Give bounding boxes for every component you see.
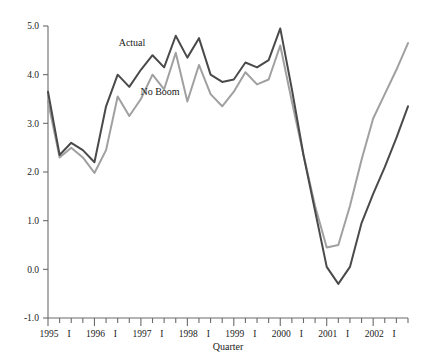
y-tick-label: 4.0 bbox=[27, 70, 39, 80]
y-tick-label: 5.0 bbox=[27, 21, 39, 31]
data-series-group bbox=[48, 28, 408, 284]
x-tick-label-quarter: I bbox=[253, 329, 256, 339]
x-tick-label-quarter: I bbox=[300, 329, 303, 339]
x-tick-label-year: 2000 bbox=[272, 329, 291, 339]
x-tick-label-quarter: I bbox=[346, 329, 349, 339]
x-tick-label-quarter: I bbox=[207, 329, 210, 339]
y-tick-label: 0.0 bbox=[27, 265, 39, 275]
series-annotation-actual: Actual bbox=[119, 37, 146, 48]
series-line-no-boom bbox=[48, 43, 408, 247]
chart-container: -1.00.01.02.03.04.05.0 1995I1996I1997I19… bbox=[0, 0, 432, 363]
x-tick-label-year: 1996 bbox=[86, 329, 105, 339]
y-axis-tick-labels: -1.00.01.02.03.04.05.0 bbox=[24, 21, 39, 323]
x-tick-label-quarter: I bbox=[160, 329, 163, 339]
y-axis-ticks bbox=[43, 26, 48, 318]
y-tick-label: 1.0 bbox=[27, 216, 39, 226]
x-tick-label-year: 1995 bbox=[40, 329, 59, 339]
y-tick-label: 3.0 bbox=[27, 119, 39, 129]
x-tick-label-year: 1999 bbox=[225, 329, 244, 339]
y-axis: -1.00.01.02.03.04.05.0 bbox=[24, 21, 48, 323]
x-axis-title: Quarter bbox=[213, 341, 244, 352]
x-axis-ticks bbox=[48, 318, 408, 326]
economic-growth-line-chart: -1.00.01.02.03.04.05.0 1995I1996I1997I19… bbox=[0, 0, 432, 363]
x-tick-label-year: 2002 bbox=[365, 329, 384, 339]
x-tick-label-quarter: I bbox=[67, 329, 70, 339]
y-tick-label: 2.0 bbox=[27, 167, 39, 177]
x-tick-label-year: 2001 bbox=[318, 329, 337, 339]
x-tick-label-quarter: I bbox=[114, 329, 117, 339]
x-tick-label-year: 1997 bbox=[132, 329, 151, 339]
x-tick-label-year: 1998 bbox=[179, 329, 198, 339]
x-axis: 1995I1996I1997I1998I1999I2000I2001I2002I bbox=[40, 318, 409, 339]
y-tick-label: -1.0 bbox=[24, 313, 39, 323]
series-annotation-no-boom: No Boom bbox=[140, 86, 179, 97]
x-axis-tick-labels: 1995I1996I1997I1998I1999I2000I2001I2002I bbox=[40, 329, 396, 339]
x-tick-label-quarter: I bbox=[393, 329, 396, 339]
